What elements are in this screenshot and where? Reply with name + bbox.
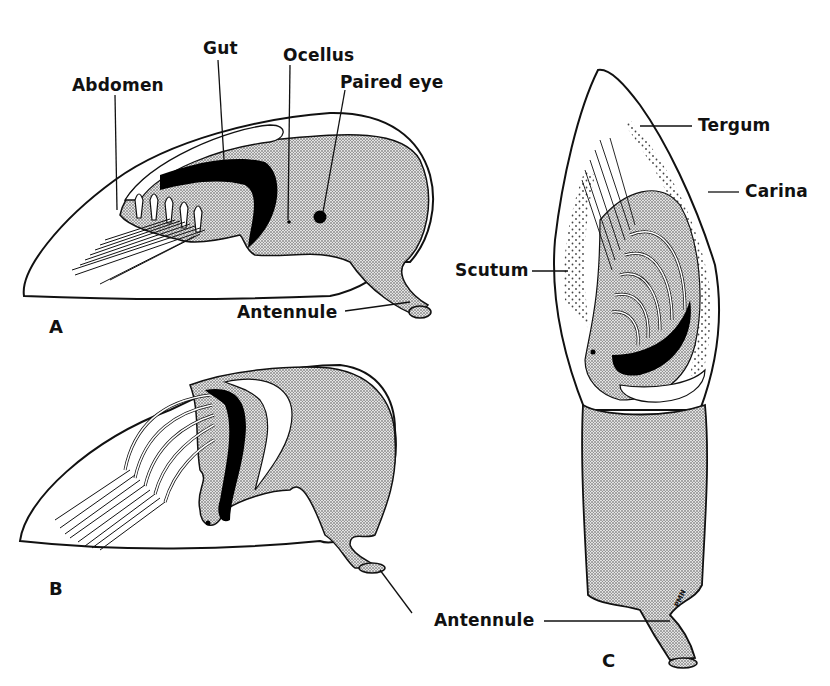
panel-c-drawing: [532, 70, 739, 668]
label-scutum: Scutum: [455, 260, 529, 280]
paired-eye-dot: [314, 211, 327, 224]
label-ocellus: Ocellus: [283, 45, 354, 65]
panel-label-a: A: [49, 316, 63, 337]
panel-a-drawing: [24, 60, 433, 318]
label-tergum: Tergum: [698, 115, 770, 135]
cyprid-illustration: [0, 0, 830, 686]
label-antennule-a: Antennule: [237, 302, 337, 322]
ocellus-dot: [287, 220, 291, 224]
label-abdomen: Abdomen: [72, 75, 164, 95]
label-paired-eye: Paired eye: [340, 72, 443, 92]
panel-b-drawing: [20, 365, 412, 613]
panel-label-b: B: [49, 578, 63, 599]
label-gut: Gut: [203, 38, 238, 58]
label-carina: Carina: [745, 181, 808, 201]
panel-label-c: C: [602, 650, 615, 671]
label-antennule-c: Antennule: [434, 610, 534, 630]
